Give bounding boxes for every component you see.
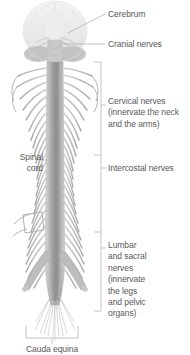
- label-bottom-cutoff: Cauda equina: [26, 344, 78, 355]
- cauda-equina: [35, 296, 75, 341]
- brainstem-shape: [47, 40, 63, 64]
- label-cranial-nerves: Cranial nerves: [108, 39, 162, 50]
- label-cervical-nerves: Cervical nerves (innervate the neck and …: [108, 96, 179, 130]
- label-cerebrum: Cerebrum: [108, 9, 145, 20]
- bottom-bracket: [26, 326, 78, 344]
- label-lumbar-sacral-nerves: Lumbar and sacral nerves (innervate the …: [108, 240, 146, 320]
- bracket-group: [94, 62, 106, 311]
- spinal-cord-shape: [45, 62, 64, 306]
- lumbar-plexus: [13, 212, 44, 236]
- label-intercostal-nerves: Intercostal nerves: [108, 163, 174, 174]
- label-spinal-cord: Spinal cord: [20, 152, 43, 175]
